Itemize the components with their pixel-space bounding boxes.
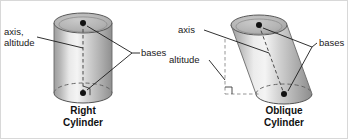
oblique-cylinder-caption-line2: Cylinder xyxy=(264,117,304,128)
oblique-cylinder-right-angle-marker xyxy=(225,87,232,94)
right-cylinder-caption: Right Cylinder xyxy=(43,105,123,129)
oblique-cylinder-body xyxy=(231,25,312,104)
right-cylinder-top-center-dot xyxy=(80,20,86,26)
right-axis-altitude-label-line2: altitude xyxy=(4,37,35,48)
oblique-cylinder-top-center-dot xyxy=(256,22,262,28)
right-axis-altitude-label-line1: axis, xyxy=(4,26,24,37)
oblique-cylinder-caption: Oblique Cylinder xyxy=(239,105,329,129)
oblique-altitude-leader xyxy=(209,60,225,80)
oblique-cylinder-caption-line1: Oblique xyxy=(265,105,302,116)
right-cylinder-caption-line1: Right xyxy=(70,105,96,116)
cylinder-figure: axis, altitude bases Right Cylinder axis… xyxy=(0,0,348,139)
right-cylinder-bottom-center-dot xyxy=(80,90,86,96)
right-cylinder-drawing xyxy=(37,13,140,103)
right-axis-altitude-label: axis, altitude xyxy=(4,26,35,48)
oblique-cylinder-drawing xyxy=(204,15,317,104)
right-cylinder-caption-line2: Cylinder xyxy=(63,117,103,128)
oblique-bases-label: bases xyxy=(319,37,344,48)
oblique-cylinder-bottom-center-dot xyxy=(281,91,287,97)
oblique-altitude-label: altitude xyxy=(169,54,200,65)
oblique-axis-label: axis xyxy=(178,24,195,35)
right-bases-label: bases xyxy=(141,47,166,58)
oblique-bases-leader-stem xyxy=(312,43,317,47)
